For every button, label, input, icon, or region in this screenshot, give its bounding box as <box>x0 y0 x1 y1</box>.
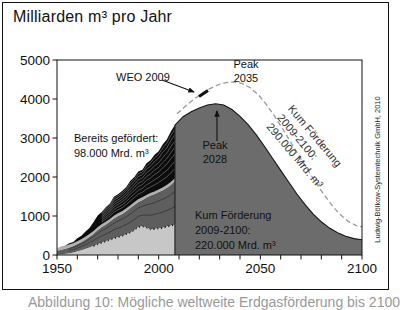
y-tick-label: 2000 <box>20 170 50 185</box>
cumulative-solid-line1: Kum Förderung <box>195 208 276 223</box>
peak-2035-line2: 2035 <box>228 71 264 85</box>
peak-2028-line2: 2028 <box>196 152 234 166</box>
x-tick-label: 2000 <box>144 261 174 276</box>
chart-title: Milliarden m³ pro Jahr <box>13 8 172 26</box>
y-tick-label: 3000 <box>20 131 50 146</box>
source-attribution: Ludwig-Bölkow-Systemtechnik GmbH, 2010 <box>373 95 382 245</box>
already-produced-line1: Bereits gefördert: <box>74 131 158 146</box>
peak-2035-label: Peak 2035 <box>228 57 264 85</box>
weo-2009-label-text: WEO 2009 <box>116 71 170 83</box>
x-tick-label: 1950 <box>42 261 72 276</box>
y-tick-label: 5000 <box>20 53 50 68</box>
weo-curve-marker <box>199 91 208 97</box>
peak-2028-line1: Peak <box>196 138 234 152</box>
y-tick-label: 4000 <box>20 92 50 107</box>
already-produced-line2: 98.000 Mrd. m³ <box>74 146 158 161</box>
y-tick-label: 1000 <box>20 209 50 224</box>
cumulative-solid-line3: 220.000 Mrd. m³ <box>195 238 276 253</box>
x-tick-label: 2050 <box>245 261 275 276</box>
cumulative-solid-label: Kum Förderung 2009-2100: 220.000 Mrd. m³ <box>195 208 276 253</box>
peak-2028-label: Peak 2028 <box>196 138 234 166</box>
cumulative-solid-line2: 2009-2100: <box>195 223 276 238</box>
x-tick-label: 2100 <box>347 261 377 276</box>
already-produced-label: Bereits gefördert: 98.000 Mrd. m³ <box>74 131 158 161</box>
peak-2035-line1: Peak <box>228 57 264 71</box>
weo-2009-label: WEO 2009 <box>116 70 170 84</box>
